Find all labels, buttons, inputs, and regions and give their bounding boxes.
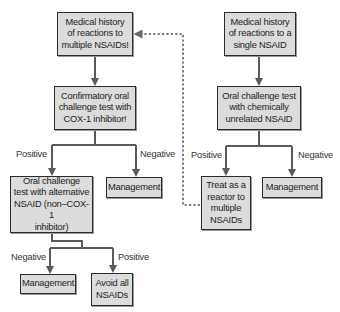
node-single-nsaid-history: Medical history of reactions to a single… [224, 12, 296, 56]
node-treat-as-reactor: Treat as a reactor to multiple NSAIDs [201, 176, 251, 230]
label-unrelated-positive: Positive [191, 150, 222, 160]
label-confirm-positive: Positive [16, 149, 47, 159]
arrow-confirm-split [52, 130, 136, 145]
arrow-unrelated-split [226, 130, 292, 146]
node-multiple-nsaid-history: Medical history of reactions to multiple… [57, 12, 133, 56]
node-management-mid-left: Management [106, 177, 162, 198]
arrow-alternative-split [50, 233, 113, 248]
node-unrelated-nsaid-challenge-test: Oral challenge test with chemically unre… [217, 86, 301, 130]
label-alternative-positive: Positive [118, 252, 149, 262]
node-alternative-nsaid-challenge-test: Oral challenge test with alternative NSA… [10, 176, 93, 233]
label-confirm-negative: Negative [140, 149, 175, 159]
node-management-mid-right: Management [262, 177, 322, 198]
label-unrelated-negative: Negative [298, 150, 333, 160]
node-management-bottom: Management [20, 274, 76, 294]
flowchart-canvas: Medical history of reactions to multiple… [0, 0, 340, 312]
node-confirmatory-challenge-test: Confirmatory oral challenge test with CO… [54, 86, 136, 130]
label-alternative-negative: Negative [11, 252, 46, 262]
node-avoid-all-nsaids: Avoid all NSAIDs [91, 273, 133, 306]
